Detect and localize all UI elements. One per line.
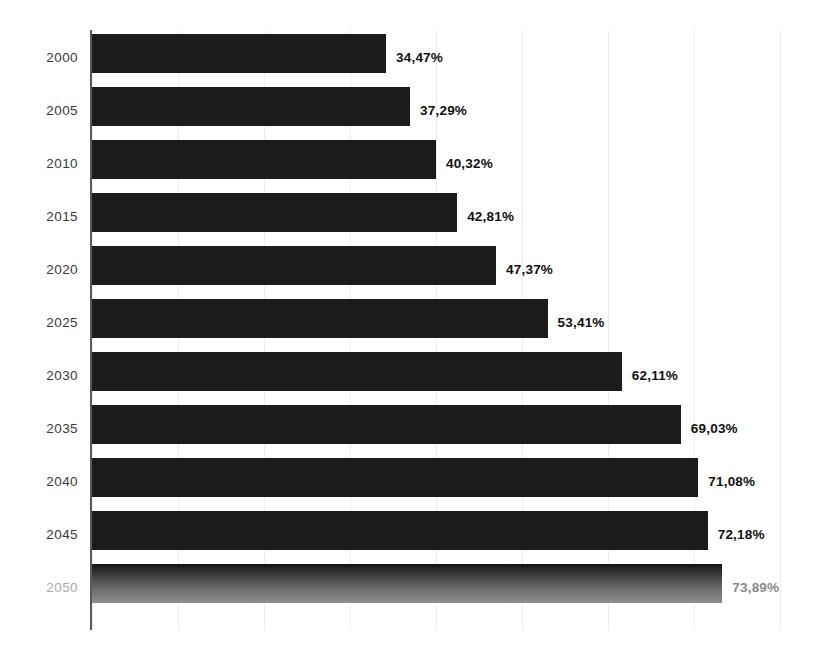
- table-row: 204572,18%: [0, 507, 819, 560]
- bar-value-label-2005: 37,29%: [420, 102, 467, 117]
- table-row: 203569,03%: [0, 401, 819, 454]
- bar-2035[interactable]: [92, 405, 681, 444]
- table-row: 202047,37%: [0, 242, 819, 295]
- category-label-2040: 2040: [0, 473, 78, 488]
- bar-2025[interactable]: [92, 299, 548, 338]
- table-row: 200034,47%: [0, 30, 819, 83]
- category-label-2030: 2030: [0, 367, 78, 382]
- bar-value-label-2025: 53,41%: [558, 314, 605, 329]
- bar-value-label-2000: 34,47%: [396, 49, 443, 64]
- bar-value-label-2020: 47,37%: [506, 261, 553, 276]
- table-row: 202553,41%: [0, 295, 819, 348]
- table-row: 204071,08%: [0, 454, 819, 507]
- bar-value-label-2045: 72,18%: [718, 526, 765, 541]
- bar-chart: 200034,47%200537,29%201040,32%201542,81%…: [0, 0, 819, 650]
- bar-value-label-2030: 62,11%: [632, 367, 678, 382]
- bar-2010[interactable]: [92, 140, 436, 179]
- bar-2005[interactable]: [92, 87, 410, 126]
- bar-value-label-2035: 69,03%: [691, 420, 738, 435]
- bar-2015[interactable]: [92, 193, 457, 232]
- table-row: 203062,11%: [0, 348, 819, 401]
- bar-value-label-2010: 40,32%: [446, 155, 493, 170]
- bar-2045[interactable]: [92, 511, 708, 550]
- category-label-2010: 2010: [0, 155, 78, 170]
- table-row: 205073,89%: [0, 560, 819, 613]
- table-row: 200537,29%: [0, 83, 819, 136]
- bar-2050[interactable]: [92, 564, 722, 603]
- bar-2030[interactable]: [92, 352, 622, 391]
- category-label-2015: 2015: [0, 208, 78, 223]
- bar-2000[interactable]: [92, 34, 386, 73]
- category-label-2035: 2035: [0, 420, 78, 435]
- category-label-2020: 2020: [0, 261, 78, 276]
- category-label-2045: 2045: [0, 526, 78, 541]
- bar-value-label-2015: 42,81%: [467, 208, 514, 223]
- bar-2020[interactable]: [92, 246, 496, 285]
- category-label-2050: 2050: [0, 579, 78, 594]
- bar-value-label-2040: 71,08%: [708, 473, 755, 488]
- bar-value-label-2050: 73,89%: [732, 579, 779, 594]
- category-label-2025: 2025: [0, 314, 78, 329]
- table-row: 201542,81%: [0, 189, 819, 242]
- category-label-2005: 2005: [0, 102, 78, 117]
- bar-rows: 200034,47%200537,29%201040,32%201542,81%…: [0, 30, 819, 630]
- bar-2040[interactable]: [92, 458, 698, 497]
- category-label-2000: 2000: [0, 49, 78, 64]
- table-row: 201040,32%: [0, 136, 819, 189]
